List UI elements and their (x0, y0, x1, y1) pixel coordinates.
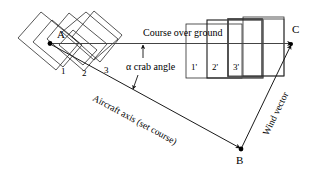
left-frame-group: 1 2 3 (18, 11, 122, 78)
diagram-root: 1 2 3 1' 2' 3' (0, 0, 317, 171)
point-c-dot (289, 42, 293, 46)
point-c-label: C (292, 23, 299, 35)
point-b-label: B (236, 154, 243, 166)
frame-2-label: 2 (82, 68, 87, 78)
frame-3-prime-label: 3' (233, 62, 240, 72)
frame-1-label: 1 (61, 66, 66, 76)
point-a-dot (48, 41, 53, 46)
frame-1-prime-label: 1' (191, 62, 198, 72)
aircraft-axis-label: Aircraft axis (set course) (91, 93, 179, 148)
point-b-dot (239, 147, 244, 152)
frame-1-outline (18, 12, 79, 70)
wind-vector-label: Wind vector (261, 90, 291, 137)
course-over-ground-label: Course over ground (143, 27, 222, 38)
crab-angle-label: α crab angle (126, 61, 176, 72)
crab-angle-diagram: 1 2 3 1' 2' 3' (0, 0, 317, 171)
point-a-label: A (57, 28, 65, 40)
frame-2-prime-label: 2' (212, 62, 219, 72)
crab-angle-lower-arrow (133, 75, 138, 89)
